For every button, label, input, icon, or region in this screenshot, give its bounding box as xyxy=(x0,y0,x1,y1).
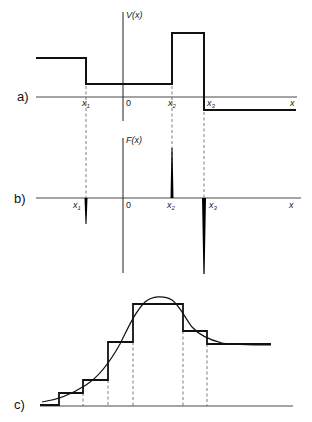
panel-c-step-dividers xyxy=(83,331,207,406)
potential-step-curve xyxy=(36,33,296,110)
staircase-approximation xyxy=(40,304,271,405)
force-spike-x2 xyxy=(171,148,174,198)
figure-canvas: a) V(x) x1 0 x2 x3 x b) F(x) x1 0 x2 x3 … xyxy=(0,0,312,422)
panel-b-origin-label: 0 xyxy=(126,200,131,210)
panel-b-x1-label: x1 xyxy=(72,200,81,211)
force-spike-x3 xyxy=(202,198,206,274)
panel-b-x2-label: x2 xyxy=(166,200,176,211)
panel-b-y-label: F(x) xyxy=(126,135,142,145)
connector-lines xyxy=(86,86,204,198)
panel-c-label: c) xyxy=(14,397,25,412)
smooth-curve xyxy=(42,297,271,402)
panel-a-y-label: V(x) xyxy=(126,10,143,20)
force-spike-x1 xyxy=(85,198,88,224)
panel-a: a) V(x) x1 0 x2 x3 x xyxy=(17,10,297,121)
panel-b-label: b) xyxy=(14,191,26,206)
panel-a-label: a) xyxy=(17,89,29,104)
panel-a-x1-label: x1 xyxy=(81,98,90,109)
panel-a-origin-label: 0 xyxy=(126,98,131,108)
panel-a-x3-label: x3 xyxy=(206,98,216,109)
panel-a-x-label: x xyxy=(289,98,295,108)
panel-b-x-label: x xyxy=(288,200,294,210)
panel-c: c) xyxy=(14,297,293,412)
panel-b-x3-label: x3 xyxy=(208,200,218,211)
panel-b: b) F(x) x1 0 x2 x3 x xyxy=(14,135,301,274)
